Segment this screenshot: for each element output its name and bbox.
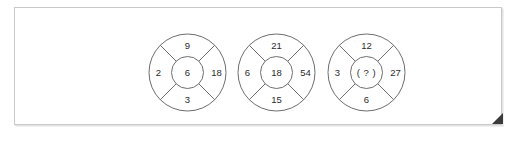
wheel-1-top-value: 9 (185, 41, 190, 51)
wheel-2-spoke-ne (288, 45, 304, 61)
wheel-2-spoke-sw (249, 84, 265, 100)
wheel-3-spoke-se (378, 84, 394, 100)
number-wheel-3: 12 3 27 6 ( ? ) (327, 33, 406, 112)
wheel-3-bottom-value: 6 (364, 95, 369, 105)
wheel-3-spoke-sw (339, 84, 355, 100)
wheel-3-spoke-nw (339, 45, 355, 61)
wheel-1-spoke-ne (199, 45, 215, 61)
wheel-1-right-value: 18 (211, 68, 222, 78)
wheel-1-spoke-nw (160, 45, 176, 61)
wheel-1-spoke-sw (160, 84, 176, 100)
page-frame: 9 2 18 3 6 21 6 54 15 18 (14, 7, 502, 125)
wheel-1-left-value: 2 (156, 68, 161, 78)
puzzle-wheel-row: 9 2 18 3 6 21 6 54 15 18 (148, 33, 406, 112)
wheel-3-spoke-ne (378, 45, 394, 61)
wheel-2-left-value: 6 (245, 68, 250, 78)
wheel-3-center-unknown: ( ? ) (357, 68, 376, 78)
wheel-2-top-value: 21 (271, 41, 282, 51)
wheel-3-left-value: 3 (335, 68, 340, 78)
wheel-2-right-value: 54 (300, 68, 311, 78)
wheel-2-spoke-se (288, 84, 304, 100)
page-fold-marker (492, 113, 503, 124)
wheel-3-right-value: 27 (390, 68, 401, 78)
number-wheel-1: 9 2 18 3 6 (148, 33, 227, 112)
number-wheel-2: 21 6 54 15 18 (237, 33, 316, 112)
wheel-1-center-value: 6 (185, 68, 190, 78)
wheel-2-spoke-nw (249, 45, 265, 61)
wheel-3-top-value: 12 (361, 41, 372, 51)
wheel-2-center-value: 18 (271, 68, 282, 78)
wheel-2-bottom-value: 15 (271, 95, 282, 105)
wheel-1-spoke-se (199, 84, 215, 100)
wheel-1-bottom-value: 3 (185, 95, 190, 105)
